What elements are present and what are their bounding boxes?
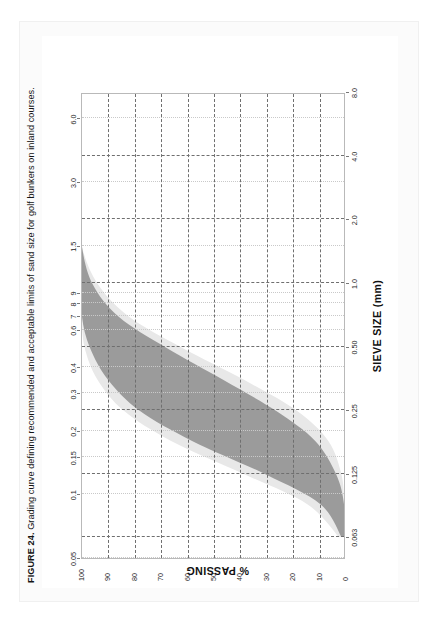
rotated-figure-wrapper: FIGURE 24. Grading curve defining recomm… <box>19 21 419 602</box>
tick-top-9-mark <box>77 293 80 294</box>
tick-bottom-2.0-mark <box>346 219 349 220</box>
tick-bottom-2.0: 2.0 <box>350 215 359 225</box>
gridline-minor-7 <box>82 315 344 316</box>
gridline-minor-0.4 <box>82 366 344 367</box>
tick-bottom-0.125: 0.125 <box>350 466 359 484</box>
gridline-minor-0.2 <box>82 430 344 431</box>
tick-bottom-0.063: 0.063 <box>350 529 359 547</box>
gridline-minor-8 <box>82 302 344 303</box>
tick-bottom-4.0: 4.0 <box>350 152 359 162</box>
tick-passing-100: 100 <box>77 569 86 581</box>
gridline-minor-0.15 <box>82 456 344 457</box>
x-axis-title: SIEVE SIZE (mm) <box>371 93 383 559</box>
gridline-passing-30 <box>267 94 268 558</box>
gridline-minor-0.6 <box>82 329 344 330</box>
gridline-sieve-0.063 <box>82 536 344 537</box>
tick-top-6.0-mark <box>77 118 80 119</box>
tick-passing-30: 30 <box>261 573 270 581</box>
figure-caption: FIGURE 24. Grading curve defining recomm… <box>25 63 69 583</box>
gridline-sieve-2.0 <box>82 218 344 219</box>
tick-top-0.4: 0.4 <box>69 363 78 373</box>
tick-bottom-0.50: 0.50 <box>350 341 359 355</box>
figure-page: FIGURE 24. Grading curve defining recomm… <box>0 0 438 623</box>
tick-bottom-0.063-mark <box>346 537 349 538</box>
tick-bottom-0.25: 0.25 <box>350 404 359 418</box>
gridline-minor-1.5 <box>82 245 344 246</box>
gridline-passing-80 <box>135 94 136 558</box>
tick-bottom-0.50-mark <box>346 347 349 348</box>
tick-passing-10: 10 <box>314 573 323 581</box>
gridline-passing-50 <box>214 94 215 558</box>
tick-top-0.1-mark <box>77 494 80 495</box>
tick-top-0.05-mark <box>77 558 80 559</box>
figure-caption-label: FIGURE 24. <box>26 532 36 583</box>
tick-passing-20: 20 <box>288 573 297 581</box>
chart-plot-area <box>81 93 345 559</box>
gridline-sieve-0.25 <box>82 409 344 410</box>
tick-top-0.6-mark <box>77 330 80 331</box>
gridline-passing-40 <box>240 94 241 558</box>
tick-bottom-1.0: 1.0 <box>350 279 359 289</box>
tick-passing-90: 90 <box>103 573 112 581</box>
tick-bottom-8.0: 8.0 <box>350 88 359 98</box>
gridline-passing-70 <box>161 94 162 558</box>
figure-body: FIGURE 24. Grading curve defining recomm… <box>19 35 375 587</box>
gridline-minor-0.3 <box>82 393 344 394</box>
gridline-sieve-0.125 <box>82 473 344 474</box>
tick-top-3.0-mark <box>77 182 80 183</box>
gridline-sieve-4.0 <box>82 155 344 156</box>
tick-top-0.4-mark <box>77 367 80 368</box>
tick-top-7-mark <box>77 316 80 317</box>
tick-top-0.15: 0.15 <box>69 451 78 465</box>
tick-bottom-0.25-mark <box>346 410 349 411</box>
tick-passing-80: 80 <box>129 573 138 581</box>
tick-top-0.15-mark <box>77 457 80 458</box>
gridline-minor-3.0 <box>82 181 344 182</box>
gridline-passing-60 <box>188 94 189 558</box>
grading-bands <box>82 94 344 558</box>
figure-caption-text: Grading curve defining recommended and a… <box>26 87 36 532</box>
gridline-passing-20 <box>293 94 294 558</box>
tick-passing-0: 0 <box>341 577 350 581</box>
gridline-passing-90 <box>108 94 109 558</box>
gridline-minor-0.05 <box>82 557 344 558</box>
gridline-minor-6.0 <box>82 117 344 118</box>
tick-top-3.0: 3.0 <box>69 178 78 188</box>
tick-top-0.3: 0.3 <box>69 389 78 399</box>
tick-top-1.5-mark <box>77 246 80 247</box>
gridline-sieve-0.50 <box>82 346 344 347</box>
gridline-minor-0.1 <box>82 493 344 494</box>
tick-bottom-0.125-mark <box>346 474 349 475</box>
y-axis-title: % PASSING <box>186 565 249 577</box>
tick-passing-70: 70 <box>156 573 165 581</box>
tick-top-6.0: 6.0 <box>69 114 78 124</box>
tick-top-8-mark <box>77 303 80 304</box>
gridline-sieve-1.0 <box>82 282 344 283</box>
tick-bottom-8.0-mark <box>346 92 349 93</box>
gridline-passing-10 <box>320 94 321 558</box>
tick-top-0.3-mark <box>77 393 80 394</box>
tick-top-0.2-mark <box>77 431 80 432</box>
tick-bottom-4.0-mark <box>346 156 349 157</box>
tick-top-0.1: 0.1 <box>69 490 78 500</box>
tick-top-0.6: 0.6 <box>69 326 78 336</box>
band-recommended <box>82 221 344 537</box>
tick-top-1.5: 1.5 <box>69 242 78 252</box>
tick-top-0.05: 0.05 <box>69 552 78 566</box>
tick-bottom-1.0-mark <box>346 283 349 284</box>
gridline-minor-9 <box>82 292 344 293</box>
tick-top-0.2: 0.2 <box>69 427 78 437</box>
